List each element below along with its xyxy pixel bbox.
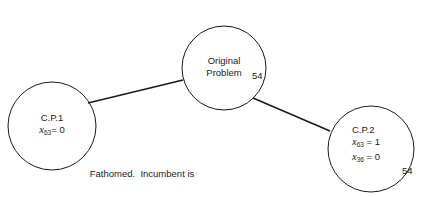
node-cp2-label: C.P.2 x63 = 1 x36 = 0 — [346, 124, 402, 166]
node-root-bound: 54 — [252, 70, 263, 81]
edge-root-cp2 — [253, 98, 330, 131]
node-cp1-title: C.P.1 — [22, 112, 82, 124]
node-root-label: Original Problem — [194, 55, 254, 79]
node-cp2-title: C.P.2 — [352, 124, 402, 136]
node-cp1-constraint: x63= 0 — [22, 124, 82, 139]
node-cp2-constraint-2: x36 = 0 — [352, 151, 402, 166]
node-root-line2: Problem — [194, 67, 254, 79]
node-cp2-constraint-1: x63 = 1 — [352, 136, 402, 151]
fathomed-line1: Fathomed. Incumbent is — [82, 168, 202, 180]
fathomed-note: Fathomed. Incumbent is {(1,4), (4, 3), (… — [82, 145, 202, 197]
tree-graphics — [0, 0, 422, 197]
node-cp1-label: C.P.1 x63= 0 — [22, 112, 82, 139]
edge-root-cp1 — [88, 80, 183, 103]
node-cp2-bound: 54 — [402, 165, 413, 176]
node-root-line1: Original — [194, 55, 254, 67]
